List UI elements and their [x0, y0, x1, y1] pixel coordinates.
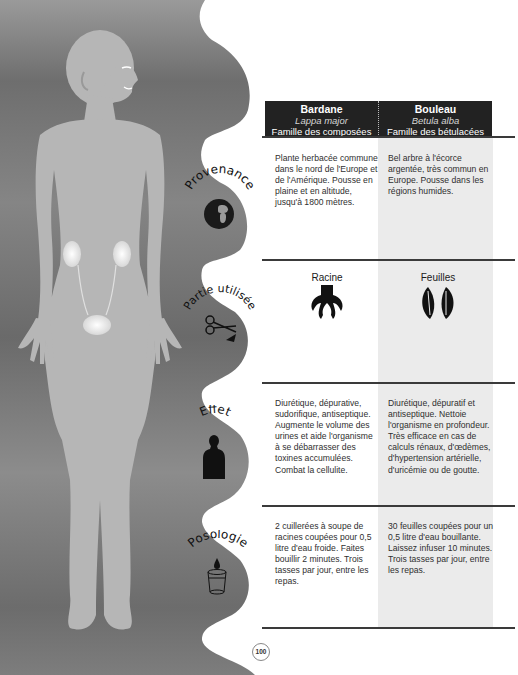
dosage-bardane: 2 cuillerées à soupe de racines coupées … [275, 521, 379, 588]
header-col-bouleau: Bouleau Betula alba Famille des bétulacé… [378, 101, 492, 137]
effect-bardane: Diurétique, dépurative, sudorifique, ant… [275, 398, 379, 476]
row-divider [262, 259, 515, 261]
plant-name: Bouleau [379, 103, 492, 115]
plant-latin-name: Lappa major [265, 115, 378, 126]
svg-text:Provenance: Provenance [182, 165, 258, 192]
svg-text:Effet: Effet [197, 405, 233, 419]
globe-icon [204, 199, 234, 229]
part-used-bouleau: Feuilles [403, 272, 473, 332]
human-silhouette-icon [201, 435, 227, 479]
header-col-bardane: Bardane Lappa major Famille des composée… [265, 101, 378, 137]
row-label-posologie: Posologie [180, 530, 256, 620]
plant-latin-name: Betula alba [379, 115, 492, 126]
row-label-partie-utilisee: Partie utilisée [178, 280, 262, 360]
row-divider [262, 382, 515, 384]
scissors-icon [202, 314, 242, 344]
body-illustration-panel: Provenance Partie utilisée [0, 0, 270, 675]
part-label: Feuilles [403, 272, 473, 283]
page-number: 100 [252, 643, 270, 661]
leaves-icon [418, 285, 458, 321]
row-label-provenance: Provenance [180, 165, 260, 245]
row-divider [262, 136, 515, 138]
part-used-bardane: Racine [295, 272, 359, 332]
dosage-bouleau: 30 feuilles coupées pour un 0,5 litre d'… [388, 521, 494, 576]
root-icon [307, 285, 347, 321]
table-header: Bardane Lappa major Famille des composée… [265, 101, 492, 137]
encyclopedia-page: Provenance Partie utilisée [0, 0, 518, 675]
provenance-bardane: Plante herbacée commune dans le nord de … [275, 153, 379, 208]
plant-comparison-table: Bardane Lappa major Famille des composée… [265, 0, 518, 675]
plant-name: Bardane [265, 103, 378, 115]
part-label: Racine [295, 272, 359, 283]
row-label-effet: Effet [185, 405, 245, 500]
row-divider [262, 505, 515, 507]
effect-bouleau: Diurétique, dépuratif et antiseptique. N… [388, 398, 494, 476]
glass-drop-icon [206, 558, 228, 596]
row-divider [262, 627, 515, 629]
svg-text:Posologie: Posologie [185, 530, 251, 550]
svg-text:Partie utilisée: Partie utilisée [181, 282, 259, 312]
provenance-bouleau: Bel arbre à l'écorce argentée, très comm… [388, 153, 494, 197]
